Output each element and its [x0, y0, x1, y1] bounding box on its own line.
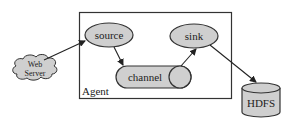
- sink-node: sink: [170, 24, 218, 48]
- source-node: source: [85, 23, 133, 47]
- web-server-label-line2: Server: [25, 69, 46, 78]
- sink-label: sink: [185, 30, 204, 42]
- hdfs-cylinder: HDFS: [242, 83, 280, 117]
- flume-diagram: Agent Web Server source sink channel HDF…: [0, 0, 289, 128]
- web-server-label-line1: Web: [28, 60, 42, 69]
- hdfs-label: HDFS: [247, 97, 275, 109]
- source-label: source: [95, 29, 124, 41]
- channel-label: channel: [128, 71, 162, 83]
- channel-node: channel: [116, 66, 191, 88]
- edge-webserver-to-source: [44, 41, 85, 60]
- web-server-cloud: Web Server: [13, 54, 57, 80]
- agent-label: Agent: [82, 85, 109, 97]
